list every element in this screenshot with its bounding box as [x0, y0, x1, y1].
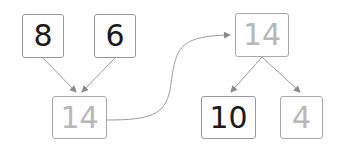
node-4: 4: [280, 96, 323, 139]
node-6: 6: [94, 14, 136, 58]
node-8: 8: [22, 14, 64, 58]
node-sum-14: 14: [52, 96, 107, 139]
arrow-8-to-14: [43, 58, 76, 92]
arrow-6-to-14: [82, 58, 115, 92]
node-10: 10: [201, 96, 256, 139]
node-whole-14: 14: [235, 13, 289, 57]
arrow-14-to-4: [262, 57, 300, 92]
arrow-14-to-10: [231, 57, 262, 92]
